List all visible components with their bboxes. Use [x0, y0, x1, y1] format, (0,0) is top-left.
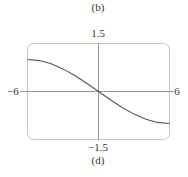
plot-area: [0, 0, 188, 177]
